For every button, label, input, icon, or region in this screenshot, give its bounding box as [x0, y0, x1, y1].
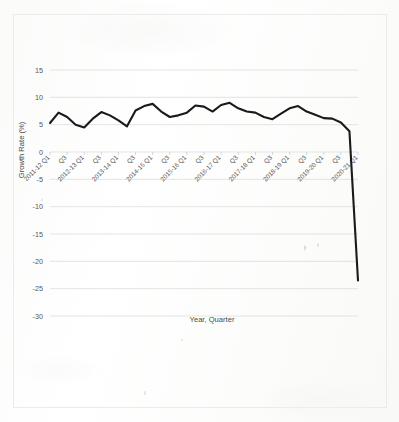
x-axis-tick-label: Q3	[194, 153, 206, 165]
y-axis-tick-label: 0	[39, 148, 43, 157]
x-axis-tick-label: Q3	[125, 153, 137, 165]
chart-canvas: 151050-5-10-15-20-25-30 2011-12 Q1Q32012…	[0, 0, 399, 422]
y-axis-tick-label: 15	[35, 66, 43, 75]
y-axis-tick-label: 10	[35, 93, 43, 102]
y-axis-tick-label: -10	[33, 202, 43, 211]
y-axis-tick-label: -30	[33, 312, 43, 321]
y-axis-tick-label: -15	[33, 230, 43, 239]
y-axis-tick-label: -25	[33, 284, 43, 293]
y-axis-tick-label: -20	[33, 257, 43, 266]
y-axis-tick-label: 5	[39, 120, 43, 129]
x-axis-tick-label: Q3	[296, 153, 308, 165]
growth-rate-series-line	[50, 103, 358, 281]
y-axis-title: Growth Rate (%)	[17, 121, 26, 178]
x-axis-tick-label: Q3	[160, 153, 172, 165]
x-axis-tick-labels: 2011-12 Q1Q32012-13 Q1Q32013-14 Q1Q32014…	[22, 153, 359, 183]
x-axis-tick-label: Q3	[331, 153, 343, 165]
x-axis-title: Year, Quarter	[190, 315, 235, 324]
x-axis-tick-label: Q3	[262, 153, 274, 165]
scan-artifacts	[41, 199, 319, 396]
y-axis-tick-labels: 151050-5-10-15-20-25-30	[33, 66, 43, 321]
x-axis-tick-label: Q3	[91, 153, 103, 165]
x-axis-tick-label: Q3	[228, 153, 240, 165]
y-axis-tick-label: -5	[37, 175, 43, 184]
growth-rate-line-chart: 151050-5-10-15-20-25-30 2011-12 Q1Q32012…	[0, 0, 399, 422]
x-axis-tick-label: Q3	[57, 153, 69, 165]
